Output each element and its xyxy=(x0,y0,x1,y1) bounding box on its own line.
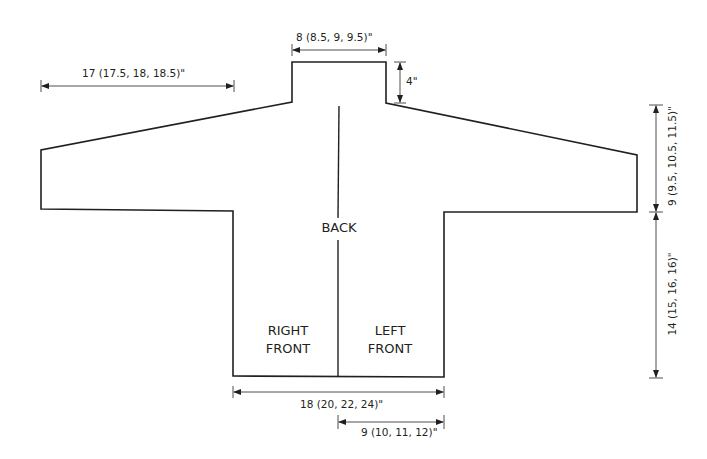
body-width-label: 18 (20, 22, 24)" xyxy=(300,398,383,410)
left-front-line2: FRONT xyxy=(358,340,422,358)
left-front-label: LEFT FRONT xyxy=(358,322,422,358)
neck-depth-label: 4" xyxy=(406,75,418,87)
body-width-dimension xyxy=(233,386,444,398)
right-front-line2: FRONT xyxy=(256,340,320,358)
neck-depth-dimension xyxy=(394,62,406,103)
neck-width-dimension xyxy=(292,44,386,56)
front-width-label: 9 (10, 11, 12)" xyxy=(361,426,437,438)
body-length-dimension xyxy=(649,213,663,378)
center-front-line xyxy=(338,106,339,218)
body-length-label: 14 (15, 16, 16)" xyxy=(666,249,678,339)
right-front-label: RIGHT FRONT xyxy=(256,322,320,358)
armhole-depth-label: 9 (9.5, 10.5, 11.5)" xyxy=(666,106,678,206)
left-front-line1: LEFT xyxy=(358,322,422,340)
sleeve-length-label: 17 (17.5, 18, 18.5)" xyxy=(82,67,185,79)
back-label: BACK xyxy=(316,219,362,237)
sleeve-length-dimension xyxy=(41,80,234,92)
right-front-line1: RIGHT xyxy=(256,322,320,340)
armhole-depth-dimension xyxy=(649,105,663,212)
neck-width-label: 8 (8.5, 9, 9.5)" xyxy=(296,31,372,43)
